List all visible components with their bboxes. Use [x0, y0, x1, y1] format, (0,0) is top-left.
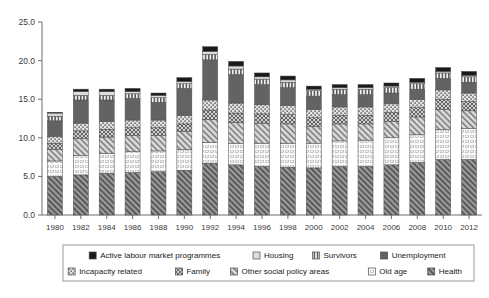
bar-segment-1996-housing	[255, 77, 270, 79]
bar-segment-2008-survivors	[410, 84, 425, 89]
bar-segment-2004-other-social-policy-areas	[358, 124, 373, 140]
x-tick-label-1986: 1986	[124, 223, 142, 232]
legend-row2-item-2[interactable]: Other social policy areas	[231, 267, 330, 276]
bar-segment-1986-incapacity-related	[125, 120, 140, 128]
bar-segment-1980-family	[47, 143, 62, 149]
bar-segment-1984-family	[99, 129, 114, 137]
bar-segment-1992-housing	[203, 51, 218, 54]
bar-segment-1994-incapacity-related	[229, 103, 244, 113]
bar-segment-2004-old-age	[358, 140, 373, 166]
bar-segment-2000-family	[306, 118, 321, 126]
x-tick-label-2008: 2008	[408, 223, 426, 232]
legend-swatch-unemployment	[381, 252, 388, 259]
bar-segment-1990-survivors	[177, 84, 192, 89]
stacked-bar-chart: 0.05.010.015.020.025.0 19801982198419861…	[0, 0, 489, 298]
bar-segment-2002-health	[332, 166, 347, 215]
bar-segment-2010-other-social-policy-areas	[436, 109, 451, 129]
x-tick-label-1996: 1996	[253, 223, 271, 232]
legend-swatch-incapacity-related	[68, 268, 75, 275]
bar-segment-1988-active-labour-market-programmes	[151, 93, 166, 95]
bar-segment-1988-other-social-policy-areas	[151, 135, 166, 150]
legend-row2-item-0[interactable]: Incapacity related	[68, 267, 142, 276]
bar-segment-2010-old-age	[436, 129, 451, 159]
bar-segment-2010-active-labour-market-programmes	[436, 68, 451, 72]
legend-swatch-old-age	[368, 268, 375, 275]
bar-segment-1992-other-social-policy-areas	[203, 119, 218, 142]
bar-segment-1988-family	[151, 128, 166, 136]
bar-segment-2006-survivors	[384, 88, 399, 93]
legend-swatch-active-labour-market-programmes	[89, 252, 96, 259]
x-tick-label-1982: 1982	[72, 223, 90, 232]
bar-segment-2006-active-labour-market-programmes	[384, 83, 399, 86]
bar-segment-1998-survivors	[280, 82, 295, 87]
bar-segment-1988-housing	[151, 95, 166, 97]
bar-segment-2004-health	[358, 166, 373, 215]
bar-segment-1998-unemployment	[280, 88, 295, 106]
bar-segment-2012-family	[462, 102, 477, 111]
bar-segment-1992-active-labour-market-programmes	[203, 47, 218, 52]
bar-segment-1994-unemployment	[229, 74, 244, 103]
bar-segment-2008-incapacity-related	[410, 99, 425, 107]
bar-segment-1980-incapacity-related	[47, 136, 62, 143]
bar-segment-2008-unemployment	[410, 89, 425, 99]
bar-segment-2010-health	[436, 159, 451, 215]
x-tick-label-2012: 2012	[460, 223, 478, 232]
x-tick-label-2000: 2000	[305, 223, 323, 232]
bar-segment-2008-active-labour-market-programmes	[410, 78, 425, 82]
bar-segment-1986-family	[125, 128, 140, 136]
y-axis: 0.05.010.015.020.025.0	[18, 17, 42, 220]
legend-row2-item-4[interactable]: Health	[428, 267, 462, 276]
bar-segment-1986-housing	[125, 91, 140, 93]
bar-segment-1982-other-social-policy-areas	[73, 139, 88, 156]
bar-segment-1992-unemployment	[203, 60, 218, 100]
legend-label-family: Family	[186, 267, 210, 276]
legend-row1-item-0[interactable]: Active labour market programmes	[89, 251, 220, 260]
legend-row2-item-1[interactable]: Family	[175, 267, 210, 276]
bar-segment-2002-family	[332, 115, 347, 123]
chart-canvas: 0.05.010.015.020.025.0 19801982198419861…	[0, 0, 489, 298]
legend-label-unemployment: Unemployment	[392, 251, 447, 260]
chart-legend: Active labour market programmesHousingSu…	[63, 245, 474, 281]
legend-label-active-labour-market-programmes: Active labour market programmes	[100, 251, 220, 260]
y-tick-label: 10.0	[18, 133, 35, 143]
legend-swatch-survivors	[312, 252, 319, 259]
bar-segment-1998-housing	[280, 80, 295, 82]
bar-segment-1990-health	[177, 170, 192, 215]
bar-segment-1996-active-labour-market-programmes	[255, 73, 270, 77]
bar-segment-1988-survivors	[151, 98, 166, 103]
bar-segment-2004-active-labour-market-programmes	[358, 85, 373, 88]
bar-segment-1984-housing	[99, 91, 114, 95]
bar-segment-1986-old-age	[125, 152, 140, 173]
bar-segment-2006-family	[384, 112, 399, 121]
y-tick-label: 25.0	[18, 17, 35, 27]
bar-segment-2010-unemployment	[436, 78, 451, 90]
legend-label-housing: Housing	[264, 251, 293, 260]
y-tick-label: 0.0	[23, 210, 35, 220]
x-tick-label-1988: 1988	[150, 223, 168, 232]
bar-segment-2012-active-labour-market-programmes	[462, 71, 477, 75]
bar-segment-1990-other-social-policy-areas	[177, 132, 192, 150]
bar-segment-1984-health	[99, 173, 114, 215]
bar-segment-2012-survivors	[462, 77, 477, 82]
x-tick-label-1992: 1992	[201, 223, 219, 232]
legend-label-other-social-policy-areas: Other social policy areas	[242, 267, 330, 276]
legend-label-incapacity-related: Incapacity related	[79, 267, 142, 276]
bar-segment-1990-family	[177, 124, 192, 132]
legend-row2-item-3[interactable]: Old age	[368, 267, 408, 276]
legend-row1-item-1[interactable]: Housing	[253, 251, 293, 260]
bar-segment-1998-other-social-policy-areas	[280, 124, 295, 143]
bar-segment-1988-old-age	[151, 151, 166, 172]
bar-segment-1996-survivors	[255, 79, 270, 84]
bar-segment-1984-other-social-policy-areas	[99, 137, 114, 153]
bar-segment-1998-health	[280, 167, 295, 215]
legend-row1-item-2[interactable]: Survivors	[312, 251, 356, 260]
bar-segment-1994-active-labour-market-programmes	[229, 61, 244, 66]
x-tick-label-2002: 2002	[331, 223, 349, 232]
bar-segment-1984-survivors	[99, 95, 114, 100]
bar-segment-1980-survivors	[47, 116, 62, 121]
bar-segment-1990-active-labour-market-programmes	[177, 78, 192, 82]
legend-row1-item-3[interactable]: Unemployment	[381, 251, 447, 260]
y-tick-label: 5.0	[23, 171, 35, 181]
bar-segment-1986-active-labour-market-programmes	[125, 88, 140, 91]
x-tick-label-2006: 2006	[383, 223, 401, 232]
